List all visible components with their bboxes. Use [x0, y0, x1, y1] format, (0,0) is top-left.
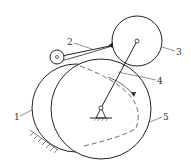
part-3-center-pin: [135, 39, 139, 43]
leader-5: [150, 117, 162, 122]
label-4: 4: [157, 76, 163, 86]
label-2: 2: [67, 37, 73, 47]
leader-1: [20, 110, 32, 116]
leader-3: [162, 47, 175, 51]
leader-2: [74, 43, 92, 49]
label-3: 3: [176, 47, 182, 57]
mechanism-diagram: 1 2 3 4 5: [0, 0, 191, 168]
label-1: 1: [14, 112, 20, 122]
label-5: 5: [163, 112, 169, 122]
roller-pin: [56, 56, 59, 59]
ground-hatch: [30, 130, 58, 153]
part-2-lever: [57, 46, 110, 57]
